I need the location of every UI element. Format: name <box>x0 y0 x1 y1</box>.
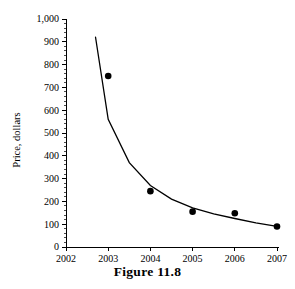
y-tick-label: 400 <box>44 150 59 161</box>
data-point <box>232 210 239 217</box>
y-tick-label: 200 <box>44 196 59 207</box>
price-vs-year-chart: 01002003004005006007008009001,000 200220… <box>0 0 295 262</box>
y-tick-label: 0 <box>54 241 59 252</box>
y-axis-ticks <box>62 19 66 247</box>
figure-caption: Figure 11.8 <box>0 264 295 280</box>
x-tick-label: 2006 <box>225 253 245 262</box>
y-tick-label: 100 <box>44 219 59 230</box>
data-point <box>105 73 112 80</box>
y-tick-label: 500 <box>44 127 59 138</box>
y-axis-title: Price, dollars <box>11 112 22 167</box>
y-tick-label: 1,000 <box>37 13 60 24</box>
x-axis-tick-labels: 200220032004200520062007 <box>56 253 287 262</box>
x-tick-label: 2004 <box>140 253 160 262</box>
x-tick-label: 2003 <box>98 253 118 262</box>
y-axis-tick-labels: 01002003004005006007008009001,000 <box>37 13 60 252</box>
y-tick-label: 600 <box>44 105 59 116</box>
data-point <box>147 188 154 195</box>
data-point <box>274 223 281 230</box>
data-point <box>189 208 196 215</box>
figure-container: 01002003004005006007008009001,000 200220… <box>0 0 295 289</box>
x-tick-label: 2002 <box>56 253 76 262</box>
x-axis-ticks <box>66 247 277 251</box>
x-tick-label: 2007 <box>267 253 287 262</box>
y-tick-label: 800 <box>44 59 59 70</box>
y-tick-label: 300 <box>44 173 59 184</box>
data-point-markers <box>105 73 280 230</box>
y-tick-label: 900 <box>44 36 59 47</box>
fitted-curve <box>96 37 277 226</box>
y-tick-label: 700 <box>44 82 59 93</box>
x-tick-label: 2005 <box>183 253 203 262</box>
